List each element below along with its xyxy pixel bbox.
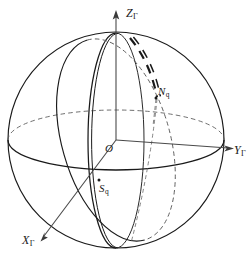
y-axis-label-subscript: Γ [241, 149, 246, 158]
z-axis-label: ZΓ [126, 7, 138, 21]
y-axis-arrowhead [224, 145, 234, 151]
equator-front-arc [8, 140, 224, 170]
south-point-label-subscript: q [105, 187, 109, 196]
origin-label-base: O [105, 142, 113, 154]
south-point-label-base: S [99, 182, 105, 194]
north-point-label: Nq [158, 86, 169, 99]
north-point-label-subscript: q [166, 90, 170, 99]
y-axis-label-base: Y [234, 143, 241, 157]
x-axis-label-base: X [22, 233, 29, 247]
y-axis-label: YΓ [234, 144, 246, 158]
south-point-label: Sq [99, 183, 109, 196]
x-axis-label: XΓ [22, 234, 34, 248]
meridian-front-arc [88, 33, 116, 248]
sphere-diagram-canvas [0, 0, 252, 258]
y-axis-line [116, 140, 228, 148]
origin-label: O [105, 143, 113, 154]
z-axis-label-base: Z [126, 6, 133, 20]
tilted-circle-front-arc [35, 40, 144, 255]
z-axis-label-subscript: Γ [133, 12, 138, 21]
x-axis-label-subscript: Γ [30, 239, 35, 248]
sphere-diagram-figure: ZΓ YΓ XΓ O Nq Sq [0, 0, 252, 258]
polar-dashed-arc-group [130, 37, 160, 97]
north-point-label-base: N [158, 85, 165, 97]
x-axis-arrowhead [41, 232, 48, 241]
